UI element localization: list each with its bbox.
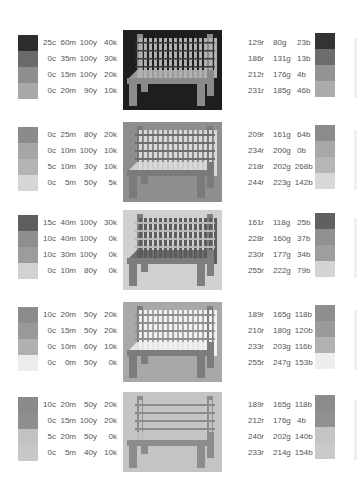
rgb-values: 189r165g118b212r176g4b240r202g140b233r21… <box>248 397 312 461</box>
cmyk-k-value: 0k <box>97 355 117 371</box>
cmyk-k-value: 30k <box>97 215 117 231</box>
cmyk-row: 0c20m90y10k <box>42 83 122 99</box>
rgb-b-value: 64b <box>293 127 312 143</box>
rgb-b-value: 25b <box>293 215 312 231</box>
rgb-swatch-column <box>315 125 335 189</box>
rgb-row: 255r247g153b <box>248 355 312 371</box>
cmyk-row: 0c0m50y0k <box>42 355 122 371</box>
cmyk-k-value: 20k <box>97 127 117 143</box>
cmyk-y-value: 80y <box>76 127 97 143</box>
cmyk-c-value: 15c <box>42 215 56 231</box>
rgb-r-value: 209r <box>248 127 264 143</box>
color-section-3: 15c40m100y30k10c40m100y0k10c30m100y0k0c1… <box>0 210 357 290</box>
cmyk-c-value: 10c <box>42 231 56 247</box>
cmyk-k-value: 0k <box>97 263 117 279</box>
rgb-r-value: 231r <box>248 83 264 99</box>
cmyk-m-value: 15m <box>56 67 76 83</box>
cmyk-y-value: 60y <box>76 339 97 355</box>
rgb-g-value: 80g <box>264 35 293 51</box>
cmyk-swatch-column <box>18 307 38 371</box>
color-swatch <box>315 125 335 141</box>
cmyk-y-value: 100y <box>76 231 97 247</box>
cmyk-y-value: 30y <box>76 159 97 175</box>
color-swatch <box>315 65 335 81</box>
rgb-r-value: 244r <box>248 175 264 191</box>
rgb-g-value: 200g <box>264 143 293 159</box>
rgb-b-value: 46b <box>293 83 312 99</box>
rgb-r-value: 129r <box>248 35 264 51</box>
rgb-swatch-column <box>315 305 335 369</box>
rgb-g-value: 214g <box>264 445 291 461</box>
cmyk-c-value: 5c <box>42 159 56 175</box>
color-swatch <box>18 355 38 371</box>
cmyk-row: 10c20m50y20k <box>42 307 122 323</box>
cmyk-k-value: 0k <box>97 429 117 445</box>
cmyk-m-value: 15m <box>56 413 76 429</box>
cmyk-k-value: 10k <box>97 143 117 159</box>
rgb-g-value: 131g <box>264 51 293 67</box>
cmyk-y-value: 100y <box>76 247 97 263</box>
rgb-r-value: 189r <box>248 307 264 323</box>
color-swatch <box>315 261 335 277</box>
cmyk-c-value: 0c <box>42 127 56 143</box>
cmyk-m-value: 10m <box>56 143 76 159</box>
cmyk-m-value: 15m <box>56 323 76 339</box>
cmyk-c-value: 25c <box>42 35 56 51</box>
color-swatch <box>18 83 38 99</box>
cmyk-m-value: 20m <box>56 397 76 413</box>
rgb-r-value: 189r <box>248 397 264 413</box>
cmyk-row: 0c35m100y30k <box>42 51 122 67</box>
rgb-b-value: 268b <box>291 159 313 175</box>
color-swatch <box>18 51 38 67</box>
bench-illustration <box>123 30 222 110</box>
cmyk-y-value: 100y <box>76 413 97 429</box>
rgb-b-value: 0b <box>293 143 312 159</box>
cmyk-k-value: 10k <box>97 159 117 175</box>
rgb-row: 234r200g0b <box>248 143 312 159</box>
rgb-r-value: 212r <box>248 413 264 429</box>
rgb-b-value: 13b <box>293 51 312 67</box>
rgb-r-value: 255r <box>248 355 264 371</box>
color-section-4: 10c20m50y20k0c15m50y20k0c10m60y10k0c0m50… <box>0 302 357 382</box>
rgb-r-value: 212r <box>248 67 264 83</box>
rgb-row: 210r180g120b <box>248 323 312 339</box>
color-swatch <box>18 175 38 191</box>
cmyk-values: 15c40m100y30k10c40m100y0k10c30m100y0k0c1… <box>42 215 122 279</box>
cmyk-row: 0c15m50y20k <box>42 323 122 339</box>
cmyk-k-value: 10k <box>97 339 117 355</box>
rgb-row: 240r202g140b <box>248 429 312 445</box>
rgb-values: 129r80g23b186r131g13b212r176g4b231r185g4… <box>248 35 312 99</box>
cmyk-c-value: 10c <box>42 307 56 323</box>
cmyk-k-value: 30k <box>97 51 117 67</box>
rgb-b-value: 118b <box>291 307 312 323</box>
cmyk-c-value: 0c <box>42 323 56 339</box>
cmyk-values: 0c25m80y20k0c10m100y10k5c10m30y10k0c5m50… <box>42 127 122 191</box>
color-swatch <box>18 429 38 445</box>
cmyk-c-value: 0c <box>42 445 56 461</box>
rgb-r-value: 186r <box>248 51 264 67</box>
cmyk-k-value: 10k <box>97 445 117 461</box>
rgb-r-value: 233r <box>248 445 264 461</box>
cmyk-m-value: 60m <box>56 35 76 51</box>
rgb-r-value: 234r <box>248 143 264 159</box>
rgb-b-value: 116b <box>291 339 312 355</box>
bench-illustration <box>123 210 222 290</box>
rgb-row: 218r202g268b <box>248 159 312 175</box>
rgb-r-value: 255r <box>248 263 264 279</box>
rgb-b-value: 34b <box>293 247 312 263</box>
cmyk-row: 0c5m40y10k <box>42 445 122 461</box>
cmyk-c-value: 0c <box>42 263 56 279</box>
rgb-values: 209r161g64b234r200g0b218r202g268b244r223… <box>248 127 312 191</box>
color-swatch <box>18 159 38 175</box>
color-swatch <box>315 321 335 337</box>
rgb-swatch-column <box>315 395 335 459</box>
rgb-r-value: 218r <box>248 159 264 175</box>
cmyk-swatch-column <box>18 127 38 191</box>
color-swatch <box>315 395 335 411</box>
rgb-row: 186r131g13b <box>248 51 312 67</box>
color-swatch <box>18 35 38 51</box>
rgb-row: 231r185g46b <box>248 83 312 99</box>
cmyk-row: 0c25m80y20k <box>42 127 122 143</box>
rgb-g-value: 161g <box>264 127 293 143</box>
color-swatch <box>315 213 335 229</box>
